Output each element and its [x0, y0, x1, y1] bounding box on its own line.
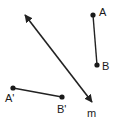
segment-a-prime-b-prime — [13, 88, 62, 97]
point-label-b: B — [102, 61, 109, 72]
point-label-b-prime: B' — [57, 104, 66, 115]
point-b-dot — [94, 62, 99, 67]
line-label-m: m — [87, 108, 96, 119]
point-a-prime-dot — [10, 85, 15, 90]
segment-ab — [93, 15, 97, 65]
line-m — [25, 15, 92, 102]
point-label-a: A — [99, 7, 106, 18]
geometry-figure: A B A' B' m — [0, 0, 116, 122]
point-b-prime-dot — [59, 94, 64, 99]
point-a-dot — [90, 12, 95, 17]
point-label-a-prime: A' — [5, 93, 14, 104]
